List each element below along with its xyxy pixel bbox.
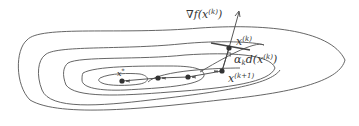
point-3 <box>185 74 190 79</box>
step-label: αkd(x(k)) <box>234 53 277 67</box>
gradient-label: ∇f(x(k)) <box>186 8 222 21</box>
arrowhead-2 <box>162 78 166 80</box>
contour-6 <box>148 68 240 82</box>
xstar-label: x* <box>117 67 125 78</box>
point-4 <box>155 75 160 80</box>
contour-1 <box>18 27 345 110</box>
point-xstar <box>119 78 124 83</box>
point-xk1 <box>219 68 224 73</box>
gradient-descent-diagram: ∇f(x(k)) x(k) αkd(x(k)) x(k+1) x* <box>0 0 359 126</box>
point-xk <box>226 45 231 50</box>
xk1-label: x(k+1) <box>228 72 255 85</box>
